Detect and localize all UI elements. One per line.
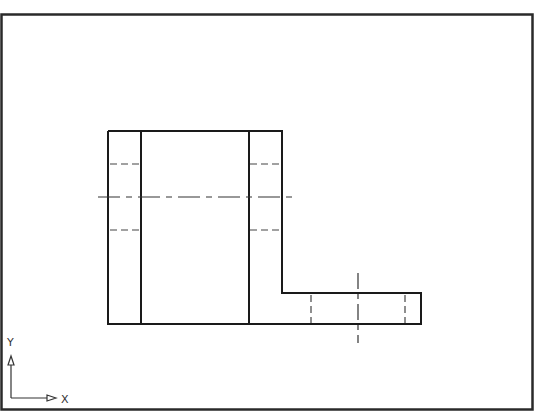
drawing-border [2, 15, 533, 410]
ucs-x-label: X [61, 393, 69, 406]
ucs-y-label: Y [6, 336, 14, 349]
drawing-canvas: Y X [0, 0, 543, 413]
